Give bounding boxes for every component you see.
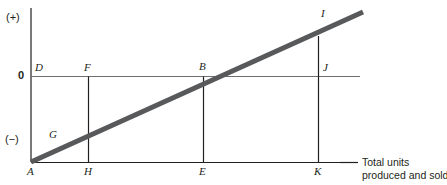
point-label-e: E: [199, 166, 206, 177]
y-axis-zero-label: 0: [18, 70, 24, 81]
point-label-g: G: [49, 129, 57, 140]
point-label-k: K: [314, 166, 321, 177]
x-axis-caption-line2: produced and sold: [362, 169, 447, 182]
point-label-j: J: [323, 62, 328, 73]
point-label-i: I: [321, 8, 325, 19]
point-label-d: D: [35, 62, 43, 73]
x-axis-caption: Total units produced and sold: [362, 156, 447, 182]
y-axis-negative-label: (−): [5, 134, 19, 145]
breakeven-chart: (+) 0 (−) D F B J I G A H E K Total unit…: [0, 0, 447, 185]
point-label-b: B: [199, 61, 206, 72]
x-axis-caption-line1: Total units: [362, 156, 447, 169]
profit-line: [31, 12, 363, 162]
point-label-a: A: [27, 166, 34, 177]
point-label-f: F: [84, 62, 91, 73]
y-axis-positive-label: (+): [6, 12, 20, 23]
point-label-h: H: [84, 166, 92, 177]
